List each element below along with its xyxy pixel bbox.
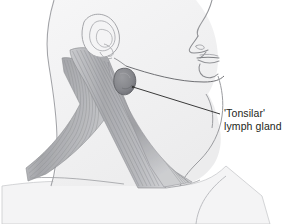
label-tonsillar: 'Tonsilar' [224, 107, 265, 119]
illustration-canvas: 'Tonsilar' lymph gland [0, 0, 284, 224]
label-lymph-gland: lymph gland [224, 120, 282, 132]
anatomy-illustration: 'Tonsilar' lymph gland [0, 0, 284, 224]
tonsillar-lymph-gland [114, 68, 136, 95]
